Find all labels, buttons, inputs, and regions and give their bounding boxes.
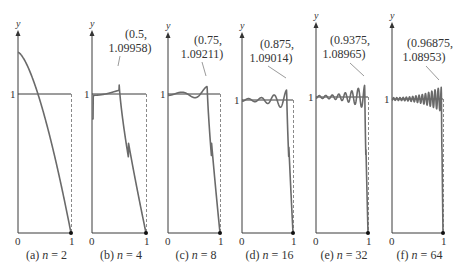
panel-caption: (f) n = 64 <box>397 248 443 262</box>
y-tick-1: 1 <box>84 88 90 100</box>
figure: y101(a) n = 2y101(b) n = 4(0.5,1.09958)y… <box>0 0 462 272</box>
x-tick-0: 0 <box>389 235 395 247</box>
panel-a: y101(a) n = 2 <box>10 18 75 262</box>
approximation-curve <box>168 87 220 233</box>
y-axis-label: y <box>89 18 95 29</box>
panel-caption: (e) n = 32 <box>320 248 367 262</box>
x-tick-1: 1 <box>366 235 372 247</box>
panel-e: y101(e) n = 32(0.9375,1.08965) <box>308 10 372 262</box>
annotation-leader-line <box>268 66 286 78</box>
annotation-leader-line <box>118 56 120 66</box>
x-tick-0: 0 <box>313 235 319 247</box>
y-tick-1: 1 <box>160 88 166 100</box>
x-tick-0: 0 <box>165 235 171 247</box>
y-tick-1: 1 <box>10 88 16 100</box>
max-point-annotation: (0.5, <box>125 27 147 41</box>
y-axis-label: y <box>165 20 171 31</box>
y-tick-1: 1 <box>308 91 314 103</box>
y-axis-arrow-icon <box>240 32 245 38</box>
annotation-leader-line <box>202 62 206 76</box>
panel-c: y101(c) n = 8(0.75,1.09211) <box>160 20 224 262</box>
x-tick-1: 1 <box>441 235 447 247</box>
y-axis-label: y <box>239 20 245 31</box>
max-point-annotation: 1.09014) <box>250 51 293 65</box>
x-tick-0: 0 <box>15 235 21 247</box>
panel-caption: (c) n = 8 <box>175 248 216 262</box>
x-tick-1: 1 <box>144 235 150 247</box>
panel-b: y101(b) n = 4(0.5,1.09958) <box>84 18 152 262</box>
max-point-annotation: (0.75, <box>194 33 222 47</box>
y-axis-arrow-icon <box>90 30 95 36</box>
approximation-curve <box>316 85 368 233</box>
panel-caption: (d) n = 16 <box>246 248 294 262</box>
x-tick-1: 1 <box>218 235 224 247</box>
max-point-annotation: (0.96875, <box>407 36 453 50</box>
y-axis-arrow-icon <box>314 22 319 28</box>
approximation-curve <box>242 90 293 233</box>
panel-f: y101(f) n = 64(0.96875,1.08953) <box>384 10 453 262</box>
max-point-annotation: 1.08953) <box>403 50 446 64</box>
approximation-curve <box>18 52 71 233</box>
y-axis-arrow-icon <box>16 30 21 36</box>
y-axis-arrow-icon <box>390 22 395 28</box>
x-tick-0: 0 <box>89 235 95 247</box>
max-point-annotation: (0.875, <box>260 37 294 51</box>
max-point-annotation: (0.9375, <box>330 33 370 47</box>
approximation-curve <box>392 87 443 233</box>
y-axis-arrow-icon <box>166 32 171 38</box>
y-axis-label: y <box>389 10 395 21</box>
y-tick-1: 1 <box>384 93 390 105</box>
y-axis-label: y <box>15 18 21 29</box>
annotation-leader-line <box>350 63 364 76</box>
y-axis-label: y <box>313 10 319 21</box>
max-point-annotation: 1.08965) <box>323 47 366 61</box>
panel-caption: (b) n = 4 <box>100 248 142 262</box>
x-tick-0: 0 <box>239 235 245 247</box>
annotation-leader-line <box>426 66 439 80</box>
x-tick-1: 1 <box>69 235 75 247</box>
approximation-curve <box>92 85 146 233</box>
panel-caption: (a) n = 2 <box>26 248 67 262</box>
max-point-annotation: 1.09958) <box>109 41 152 55</box>
x-tick-1: 1 <box>291 235 297 247</box>
y-tick-1: 1 <box>234 94 240 106</box>
panel-d: y101(d) n = 16(0.875,1.09014) <box>234 20 297 262</box>
max-point-annotation: 1.09211) <box>181 47 224 61</box>
